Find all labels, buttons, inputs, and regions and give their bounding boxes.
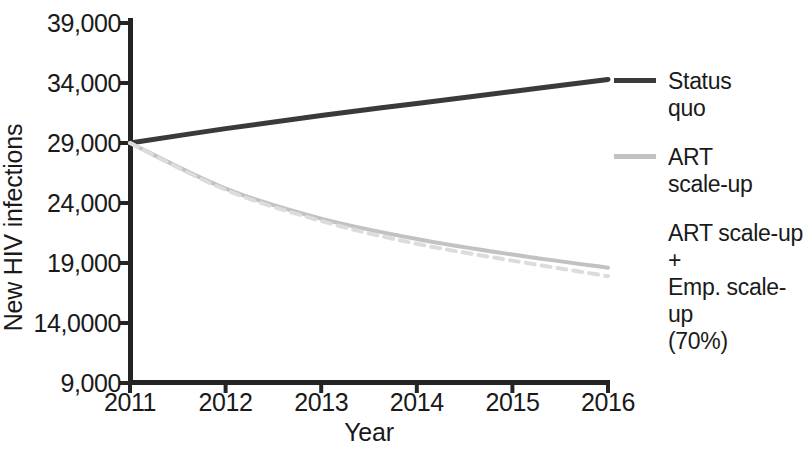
legend-label: ART scale-up + Emp. scale-up (70%) bbox=[668, 220, 806, 355]
legend-entry[interactable]: ART scale-up + Emp. scale-up (70%) bbox=[612, 220, 806, 355]
chart-legend: Status quoART scale-upART scale-up + Emp… bbox=[612, 68, 806, 377]
legend-swatch-icon bbox=[612, 68, 658, 92]
legend-label: Status quo bbox=[668, 68, 731, 122]
chart-figure: New HIV infections 9,00014,000019,00024,… bbox=[0, 0, 806, 455]
x-axis-title-text: Year bbox=[344, 418, 394, 446]
legend-swatch-icon bbox=[612, 220, 658, 244]
legend-swatch-icon bbox=[612, 144, 658, 168]
legend-label: ART scale-up bbox=[668, 144, 753, 198]
legend-entry[interactable]: Status quo bbox=[612, 68, 806, 122]
axis-lines bbox=[130, 18, 610, 383]
data-series-lines bbox=[130, 79, 608, 276]
data-series-line bbox=[130, 143, 608, 268]
x-axis-title: Year bbox=[130, 418, 608, 447]
legend-entry[interactable]: ART scale-up bbox=[612, 144, 806, 198]
data-series-line bbox=[130, 79, 608, 143]
